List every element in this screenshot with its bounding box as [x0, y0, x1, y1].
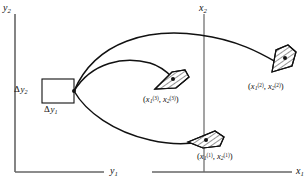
delta-y1-label: Δ y1 — [44, 105, 58, 114]
wedge-point-1 — [184, 126, 228, 152]
wedge-point-3 — [150, 66, 194, 94]
trajectory-to-point-1 — [74, 91, 199, 144]
axis-label-x1: x1 — [296, 166, 304, 176]
point-label-1: (x1(1), x2(1)) — [197, 152, 233, 161]
axis-label-x2: x2 — [199, 3, 207, 13]
right-plot-axes — [152, 14, 292, 172]
figure-canvas: y2 y1 x2 x1 Δ y2 Δ y1 (x1(2), x2(2)) (x1… — [0, 0, 307, 190]
point-label-3: (x1(3), x2(3)) — [143, 95, 179, 104]
point-marker-3 — [171, 77, 175, 81]
left-plot-axes — [15, 14, 104, 172]
point-marker-2 — [283, 56, 287, 60]
point-marker-1 — [204, 138, 208, 142]
axis-label-y1: y1 — [110, 166, 118, 176]
delta-y2-label: Δ y2 — [14, 85, 28, 94]
point-label-2: (x1(2), x2(2)) — [248, 82, 284, 91]
delta-rectangle — [42, 79, 74, 103]
axis-label-y2: y2 — [3, 3, 11, 13]
